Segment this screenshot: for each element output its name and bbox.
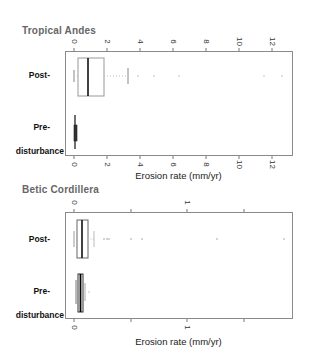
panel-title: Betic Cordillera — [22, 184, 99, 195]
category-label-pre: Pre- — [20, 286, 50, 296]
tick-label: 6 — [169, 35, 178, 49]
tick-label: 10 — [235, 35, 244, 49]
tick-label: 0 — [70, 321, 79, 335]
category-label-pre-line2: disturbance — [2, 146, 64, 156]
category-label-post: Post- — [20, 234, 50, 244]
tick-label: 1 — [183, 321, 192, 335]
x-axis-label: Erosion rate (mm/yr) — [24, 336, 309, 347]
tick-label: 2 — [103, 35, 112, 49]
boxplot-area — [65, 51, 293, 156]
x-axis-label: Erosion rate (mm/yr) — [24, 170, 309, 181]
tick-label: 0 — [70, 35, 79, 49]
panel-tropical-andes: Tropical Andes 0 2 4 6 8 10 12 — [0, 0, 309, 182]
category-label-post: Post- — [20, 70, 50, 80]
box-pre — [76, 274, 90, 312]
panel-betic-cordillera: Betic Cordillera 0 1 — [0, 182, 309, 364]
tick-label: 4 — [136, 35, 145, 49]
boxplot-area — [65, 212, 293, 319]
box-post — [74, 220, 285, 258]
box-post — [74, 58, 283, 96]
tick-label: 12 — [268, 35, 277, 49]
tick-label: 1 — [183, 196, 192, 210]
tick-label: 8 — [202, 35, 211, 49]
category-label-pre-line2: disturbance — [2, 310, 64, 320]
panel-title: Tropical Andes — [22, 25, 96, 36]
category-label-pre: Pre- — [20, 122, 50, 132]
box-pre — [74, 115, 77, 149]
tick-label: 0 — [70, 196, 79, 210]
